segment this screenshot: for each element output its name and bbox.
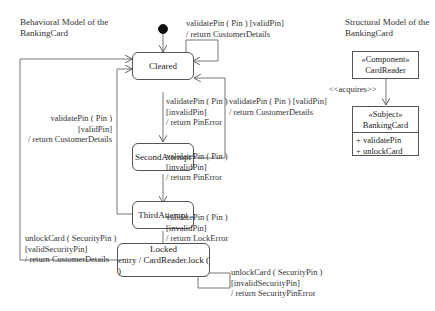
label-line: / return SecurityPinError bbox=[231, 288, 322, 299]
class-name: BankingCard bbox=[353, 120, 418, 131]
operation: + unlockCard bbox=[356, 146, 415, 157]
class-card-reader[interactable]: «Component» CardReader bbox=[352, 51, 419, 79]
label-line: validatePin ( Pin ) [validPin] bbox=[186, 18, 284, 29]
structural-model-title: Structural Model of the BankingCard bbox=[345, 17, 429, 38]
label-line: / return CustomerDetails bbox=[20, 134, 112, 145]
transition-label-cleared-to-second: validatePin ( Pin ) [invalidPin] / retur… bbox=[166, 96, 228, 128]
transition-label-cleared-self: validatePin ( Pin ) [validPin] / return … bbox=[186, 18, 284, 39]
transition-label-third-to-cleared: validatePin ( Pin ) [validPin] / return … bbox=[20, 113, 112, 145]
stereotype: «Component» bbox=[353, 54, 418, 65]
class-name: CardReader bbox=[353, 65, 418, 76]
state-name: Cleared bbox=[149, 61, 177, 72]
initial-state-icon bbox=[159, 25, 168, 34]
transition-label-second-to-third: validatePin ( Pin ) [invalidPin] / retur… bbox=[166, 151, 228, 183]
label-line: [invalidPin] bbox=[166, 107, 228, 118]
title-line: BankingCard bbox=[345, 28, 429, 39]
label-line: validatePin ( Pin ) bbox=[166, 96, 228, 107]
label-line: [invalidSecurityPin] bbox=[231, 278, 322, 289]
transition-label-second-to-cleared: validatePin ( Pin ) [validPin] / return … bbox=[229, 96, 327, 117]
title-line: BankingCard bbox=[20, 28, 108, 39]
label-line: [invalidPin] bbox=[166, 223, 228, 234]
operations-compartment: + validatePin + unlockCard bbox=[353, 132, 418, 158]
state-locked[interactable]: Locked entry / CardReader.lock ( ) bbox=[117, 243, 210, 277]
label-line: validatePin ( Pin ) bbox=[20, 113, 112, 124]
operation: + validatePin bbox=[356, 135, 415, 146]
state-entry-action: entry / CardReader.lock ( ) bbox=[118, 255, 209, 277]
label-line: / return CustomerDetails bbox=[229, 107, 327, 118]
label-line: [invalidPin] bbox=[166, 162, 228, 173]
behavioral-model-title: Behavioral Model of the BankingCard bbox=[20, 17, 108, 38]
label-line: [validPin] bbox=[20, 124, 112, 135]
label-line: validatePin ( Pin ) bbox=[166, 212, 228, 223]
label-line: unlockCard ( SecurityPin ) bbox=[25, 233, 116, 244]
label-line: [validSecurityPin] bbox=[25, 244, 116, 255]
label-line: validatePin ( Pin ) bbox=[166, 151, 228, 162]
association-label: <<acquires>> bbox=[329, 84, 377, 95]
label-line: / return PinError bbox=[166, 117, 228, 128]
state-cleared[interactable]: Cleared bbox=[132, 52, 194, 80]
state-name: Locked bbox=[150, 244, 177, 255]
title-line: Behavioral Model of the bbox=[20, 17, 108, 28]
title-line: Structural Model of the bbox=[345, 17, 429, 28]
label-line: / return LockError bbox=[166, 233, 228, 244]
label-line: validatePin ( Pin ) [validPin] bbox=[229, 96, 327, 107]
label-line: / return CustomerDetails bbox=[25, 254, 116, 265]
stereotype: «Subject» bbox=[353, 109, 418, 120]
label-line: / return PinError bbox=[166, 172, 228, 183]
label-line: / return CustomerDetails bbox=[186, 29, 284, 40]
transition-label-third-to-locked: validatePin ( Pin ) [invalidPin] / retur… bbox=[166, 212, 228, 244]
transition-label-locked-self: unlockCard ( SecurityPin ) [invalidSecur… bbox=[231, 267, 322, 299]
transition-label-locked-to-cleared: unlockCard ( SecurityPin ) [validSecurit… bbox=[25, 233, 116, 265]
label-line: unlockCard ( SecurityPin ) bbox=[231, 267, 322, 278]
class-banking-card[interactable]: «Subject» BankingCard + validatePin + un… bbox=[352, 106, 419, 156]
